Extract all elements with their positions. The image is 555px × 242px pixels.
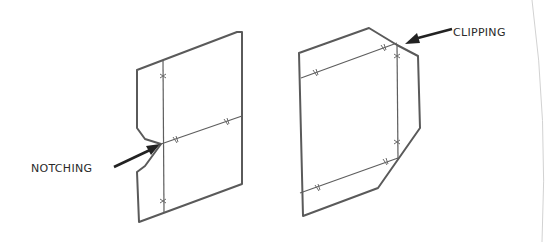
bottom-fold-line	[300, 158, 398, 193]
notching-panel: NOTCHING	[31, 32, 242, 222]
page-edge-curve	[532, 0, 544, 242]
fold-tick-marks	[313, 44, 400, 191]
fold-tick-marks	[160, 74, 229, 203]
horizontal-fold-line	[161, 116, 242, 144]
clipping-label: CLIPPING	[453, 26, 506, 39]
vertical-fold-line	[163, 61, 164, 213]
diagram-canvas: NOTCHING CLIPPING	[0, 0, 555, 242]
clipping-arrow	[405, 29, 452, 44]
notched-sheet-outline	[137, 32, 242, 222]
notching-label: NOTCHING	[31, 162, 92, 175]
clipping-panel: CLIPPING	[299, 26, 506, 216]
